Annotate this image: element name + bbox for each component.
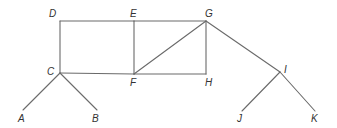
node-labels: ABCDEFGHIJK: [17, 8, 319, 124]
edge-i-k: [280, 72, 315, 111]
graph-diagram: ABCDEFGHIJK: [0, 0, 337, 128]
edge-c-f: [60, 73, 134, 74]
node-label-f: F: [130, 77, 137, 88]
node-label-b: B: [92, 113, 99, 124]
node-label-d: D: [49, 8, 56, 19]
edge-f-g: [134, 21, 206, 74]
edge-g-i: [206, 21, 280, 72]
node-label-c: C: [47, 66, 55, 77]
node-label-j: J: [236, 113, 243, 124]
edge-i-j: [242, 72, 280, 111]
node-label-h: H: [205, 77, 213, 88]
node-label-i: I: [284, 64, 287, 75]
node-label-k: K: [311, 113, 319, 124]
edge-c-b: [60, 73, 97, 110]
edge-c-a: [23, 73, 60, 110]
node-label-a: A: [17, 113, 25, 124]
edges: [23, 21, 315, 111]
node-label-e: E: [130, 8, 137, 19]
node-label-g: G: [205, 8, 213, 19]
